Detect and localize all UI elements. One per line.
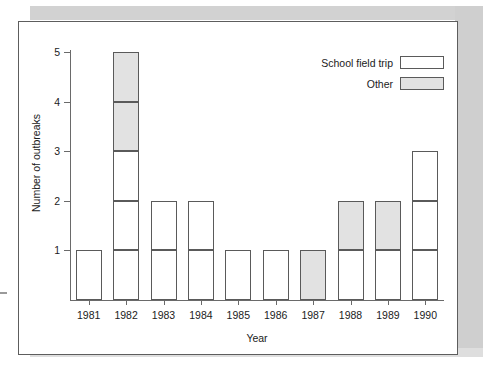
x-axis-title: Year — [70, 332, 444, 344]
bar-segment-school-field-trip — [412, 151, 438, 201]
legend-label-school-field-trip: School field trip — [321, 57, 393, 69]
bar-segment-school-field-trip — [225, 250, 251, 300]
x-axis-tick — [313, 301, 314, 305]
screenshot-root: 12345 Number of outbreaks 19811982198319… — [0, 0, 483, 373]
bar-segment-school-field-trip — [375, 250, 401, 300]
scan-edge-mark — [0, 292, 7, 294]
bar-segment-school-field-trip — [113, 250, 139, 300]
legend-label-other: Other — [367, 78, 393, 90]
bar-segment-other — [113, 102, 139, 152]
x-axis-tick — [388, 301, 389, 305]
y-axis-line — [70, 50, 71, 301]
x-axis-tick — [89, 301, 90, 305]
y-axis-tick — [64, 52, 70, 53]
scan-shadow-top — [30, 6, 483, 20]
bar-segment-school-field-trip — [151, 250, 177, 300]
x-axis-tick — [351, 301, 352, 305]
bar-segment-other — [113, 52, 139, 102]
bar-segment-school-field-trip — [188, 201, 214, 251]
legend-swatch-school-field-trip — [400, 56, 444, 69]
bar-segment-other — [375, 201, 401, 251]
y-axis-tick-label-text: 5 — [34, 47, 60, 58]
bar-stack — [113, 21, 139, 301]
bar-stack — [76, 21, 102, 301]
bar-segment-school-field-trip — [76, 250, 102, 300]
y-axis-tick — [64, 151, 70, 152]
x-axis-tick — [238, 301, 239, 305]
chart-legend: School field trip Other — [246, 55, 444, 97]
legend-item-school-field-trip: School field trip — [246, 55, 444, 70]
bar-segment-school-field-trip — [412, 201, 438, 251]
y-axis-title: Number of outbreaks — [30, 83, 42, 243]
bar-segment-school-field-trip — [263, 250, 289, 300]
bar-segment-school-field-trip — [338, 250, 364, 300]
y-axis-tick-label: 1 — [26, 245, 60, 256]
x-axis-tick — [126, 301, 127, 305]
bar-segment-school-field-trip — [113, 201, 139, 251]
bar-segment-other — [300, 250, 326, 300]
x-axis-tick-label: 1990 — [402, 309, 448, 321]
bar-segment-school-field-trip — [188, 250, 214, 300]
y-axis-tick-label-text: 1 — [34, 245, 60, 256]
bar-segment-other — [338, 201, 364, 251]
y-axis-tick — [64, 250, 70, 251]
legend-item-other: Other — [246, 76, 444, 91]
bar-segment-school-field-trip — [113, 151, 139, 201]
y-axis-tick-label: 5 — [26, 47, 60, 58]
bar-stack — [151, 21, 177, 301]
bar-segment-school-field-trip — [412, 250, 438, 300]
x-axis-tick — [425, 301, 426, 305]
stacked-bar-chart: 12345 Number of outbreaks 19811982198319… — [18, 21, 458, 355]
scan-shadow-right — [455, 6, 483, 355]
y-axis-tick — [64, 201, 70, 202]
x-axis-tick — [201, 301, 202, 305]
x-axis-tick — [276, 301, 277, 305]
x-axis-tick — [164, 301, 165, 305]
y-axis-tick — [64, 102, 70, 103]
legend-swatch-other — [400, 77, 444, 90]
bar-segment-school-field-trip — [151, 201, 177, 251]
bar-stack — [188, 21, 214, 301]
